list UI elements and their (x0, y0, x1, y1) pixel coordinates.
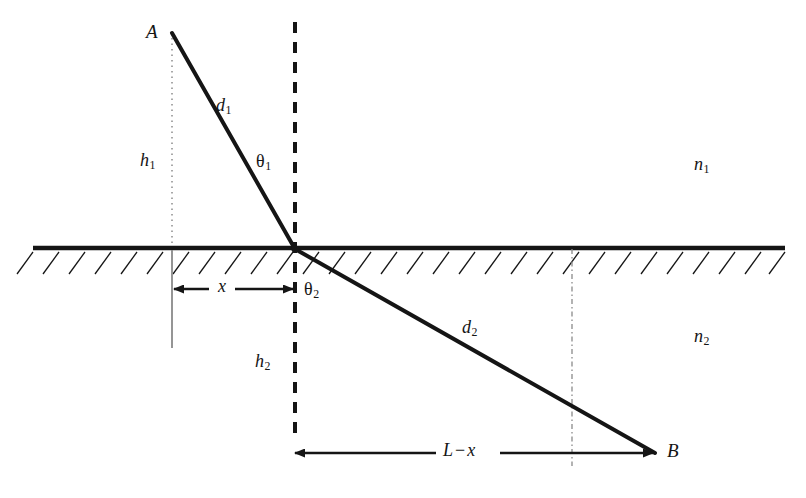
incident-ray-d1 (172, 33, 295, 249)
diagram-canvas (0, 0, 806, 498)
label-dimension-x: x (218, 277, 226, 295)
label-height-h1: h1 (140, 151, 155, 172)
refraction-point-marker (291, 245, 298, 252)
label-refractive-index-n2: n2 (694, 327, 709, 348)
label-refractive-index-n1: n1 (694, 155, 709, 176)
label-point-b: B (667, 441, 679, 460)
label-point-a: A (146, 22, 158, 41)
label-dimension-l-minus-x: L−x (443, 441, 475, 459)
label-angle-theta1: θ1 (256, 152, 271, 173)
interface-hatching (17, 252, 785, 274)
refracted-ray-d2 (295, 249, 655, 453)
label-angle-theta2: θ2 (304, 280, 319, 301)
label-height-h2: h2 (255, 352, 270, 373)
refraction-diagram-figure: A B d1 d2 h1 h2 θ1 θ2 n1 n2 x L−x (0, 0, 806, 498)
label-distance-d2: d2 (462, 318, 477, 339)
label-distance-d1: d1 (216, 96, 231, 117)
